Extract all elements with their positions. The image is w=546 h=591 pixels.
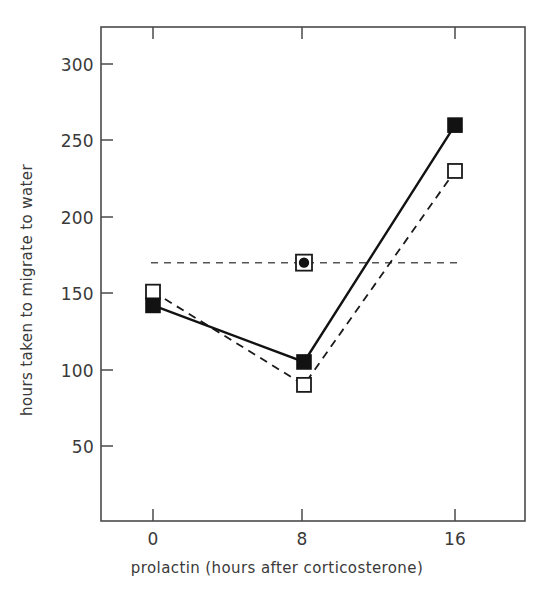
- marker-open-square-16: [448, 164, 462, 178]
- x-tick-label-16: 16: [444, 529, 466, 549]
- plot-frame: [101, 27, 525, 521]
- marker-open-square-8: [297, 378, 311, 392]
- series-filled-square-line: [153, 125, 455, 362]
- line-chart: 300 250 200 150 100 50 0 8 16: [0, 0, 546, 591]
- y-tick-label-250: 250: [61, 131, 94, 151]
- x-axis-tick-labels: 0 8 16: [147, 529, 466, 549]
- y-tick-label-150: 150: [61, 284, 94, 304]
- x-axis-title: prolactin (hours after corticosterone): [131, 559, 423, 577]
- x-axis-ticks: [153, 27, 455, 521]
- y-axis-title: hours taken to migrate to water: [18, 164, 36, 416]
- marker-filled-square-16: [448, 118, 462, 132]
- y-axis-tick-labels: 300 250 200 150 100 50: [61, 55, 94, 457]
- x-tick-label-8: 8: [296, 529, 307, 549]
- reference-point-marker: [296, 255, 312, 271]
- series-open-square-line: [153, 171, 455, 385]
- reference-marker-dot: [299, 257, 309, 267]
- y-tick-label-100: 100: [61, 361, 94, 381]
- y-tick-label-300: 300: [61, 55, 94, 75]
- y-tick-label-50: 50: [72, 437, 94, 457]
- filled-square-markers: [146, 118, 462, 369]
- chart-figure: 300 250 200 150 100 50 0 8 16: [0, 0, 546, 591]
- x-tick-label-0: 0: [147, 529, 158, 549]
- marker-filled-square-0: [146, 298, 160, 312]
- marker-filled-square-8: [297, 355, 311, 369]
- marker-open-square-0: [146, 285, 160, 299]
- y-axis-ticks: [101, 64, 113, 446]
- y-tick-label-200: 200: [61, 208, 94, 228]
